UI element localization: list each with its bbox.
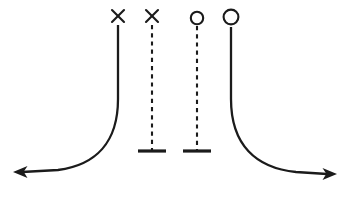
diagram-background xyxy=(0,0,349,199)
marker-circle-outer-right-icon xyxy=(224,10,239,25)
diagram-canvas xyxy=(0,0,349,199)
marker-circle-inner-right-icon xyxy=(191,12,203,24)
diagram-svg xyxy=(0,0,349,199)
